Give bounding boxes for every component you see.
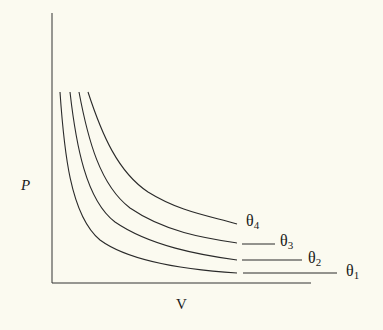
label-theta4: θ4 xyxy=(246,213,259,231)
label-theta2: θ2 xyxy=(308,250,321,268)
pv-diagram: P V θ4 θ3 θ2 θ1 xyxy=(0,0,383,330)
label-theta1: θ1 xyxy=(346,263,359,281)
label-theta3: θ3 xyxy=(280,233,293,251)
isotherm-curve-theta3 xyxy=(79,92,237,243)
isotherm-curve-theta1 xyxy=(60,92,237,273)
subscript: 1 xyxy=(354,269,360,281)
isotherm-curve-theta4 xyxy=(88,92,237,224)
theta-symbol: θ xyxy=(280,232,288,249)
subscript: 4 xyxy=(254,219,260,231)
theta-symbol: θ xyxy=(346,262,354,279)
theta-symbol: θ xyxy=(246,212,254,229)
y-axis-label: P xyxy=(21,178,30,193)
diagram-canvas xyxy=(0,0,383,330)
subscript: 3 xyxy=(288,239,294,251)
x-axis-label: V xyxy=(176,297,187,312)
subscript: 2 xyxy=(316,256,322,268)
theta-symbol: θ xyxy=(308,249,316,266)
